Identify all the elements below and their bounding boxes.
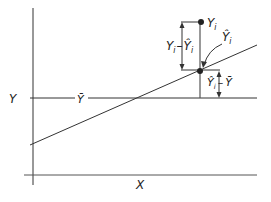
x-axis-label: X [135,178,145,192]
arrow-down-icon [217,92,222,98]
residual-label: Yi–Ŷi [166,38,194,55]
regression-deviation-diagram: Y X Ȳ Yi Ŷi Yi–Ŷi Ŷi–Ȳ [0,0,271,202]
regression-line [30,45,257,145]
observed-point [198,19,204,25]
arrow-down-icon [180,64,185,70]
arrow-up-icon [180,22,185,28]
mean-label: Ȳ [77,93,85,106]
explained-label: Ŷi–Ȳ [207,76,233,91]
y-axis-label: Y [9,92,18,106]
observed-label: Yi [207,16,217,32]
fitted-point [197,68,203,74]
fitted-label: Ŷi [222,29,232,46]
